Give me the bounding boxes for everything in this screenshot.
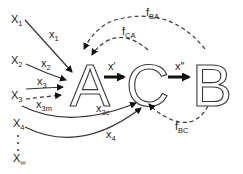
svg-text:X2: X2 xyxy=(11,54,23,69)
input-x2-label: X2 xyxy=(11,54,23,69)
edge-x3m-label: x3m xyxy=(36,98,52,113)
input-x3-label: X3 xyxy=(11,89,23,104)
edge-fba-label: fBA xyxy=(146,6,159,21)
svg-text:X∞: X∞ xyxy=(13,152,26,167)
edge-x3m-arrow xyxy=(26,95,61,99)
ellipsis-dots xyxy=(17,135,19,151)
svg-text:X1: X1 xyxy=(11,13,23,28)
input-x1-label: X1 xyxy=(11,13,23,28)
node-b: B xyxy=(192,52,232,119)
node-c: C xyxy=(126,52,169,119)
edge-xprime-label: x′ xyxy=(108,60,116,72)
edge-xdoubleprime-label: x″ xyxy=(175,60,185,72)
flow-diagram: A C B X1 X2 X3 X4 X∞ x1 x2 x3 x3m x3c x4… xyxy=(0,0,243,174)
svg-text:X4: X4 xyxy=(13,117,25,132)
edge-x1-label: x1 xyxy=(49,28,59,43)
edge-fbc-label: fBC xyxy=(175,120,189,135)
input-xinf-label: X∞ xyxy=(13,152,26,167)
svg-text:X3: X3 xyxy=(11,89,23,104)
input-x4-label: X4 xyxy=(13,117,25,132)
edge-x2-label: x2 xyxy=(41,57,51,72)
edge-x4-label: x4 xyxy=(106,128,116,143)
edge-fca-label: fCA xyxy=(122,25,135,40)
